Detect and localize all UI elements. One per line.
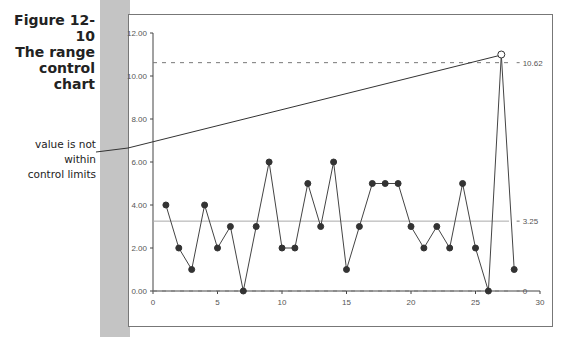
data-point	[344, 267, 350, 273]
data-point	[369, 181, 375, 187]
data-point	[408, 224, 414, 230]
out-of-control-point	[498, 51, 505, 58]
range-control-chart: 0.002.004.006.008.0010.0012.000510152025…	[0, 0, 562, 337]
data-point	[460, 181, 466, 187]
x-tick-label: 0	[151, 298, 156, 307]
x-tick-label: 5	[215, 298, 220, 307]
data-point	[189, 267, 195, 273]
data-point	[382, 181, 388, 187]
y-tick-label: 12.00	[127, 29, 148, 38]
data-point	[279, 245, 285, 251]
x-tick-label: 10	[278, 298, 287, 307]
data-point	[240, 288, 246, 294]
y-tick-label: 0.00	[131, 287, 147, 296]
data-point	[331, 159, 337, 165]
data-point	[318, 224, 324, 230]
data-point	[227, 224, 233, 230]
x-tick-label: 25	[471, 298, 480, 307]
reference-line-label: 0	[523, 287, 528, 296]
data-point	[434, 224, 440, 230]
data-point	[163, 202, 169, 208]
data-point	[511, 267, 517, 273]
data-point	[447, 245, 453, 251]
x-tick-label: 20	[407, 298, 416, 307]
annotation-leader-line	[96, 56, 499, 153]
data-point	[421, 245, 427, 251]
data-point	[485, 288, 491, 294]
data-point	[215, 245, 221, 251]
data-point	[176, 245, 182, 251]
reference-line-label: 3.25	[523, 217, 539, 226]
data-point	[473, 245, 479, 251]
data-point	[356, 224, 362, 230]
data-point	[266, 159, 272, 165]
y-tick-label: 8.00	[131, 115, 147, 124]
y-tick-label: 4.00	[131, 201, 147, 210]
data-point	[305, 181, 311, 187]
y-tick-label: 10.00	[127, 72, 148, 81]
y-tick-label: 6.00	[131, 158, 147, 167]
data-point	[292, 245, 298, 251]
data-point	[253, 224, 259, 230]
data-point	[395, 181, 401, 187]
range-series-line	[166, 55, 514, 292]
data-point	[202, 202, 208, 208]
x-tick-label: 15	[342, 298, 351, 307]
reference-line-label: 10.62	[523, 59, 544, 68]
x-tick-label: 30	[536, 298, 545, 307]
y-tick-label: 2.00	[131, 244, 147, 253]
